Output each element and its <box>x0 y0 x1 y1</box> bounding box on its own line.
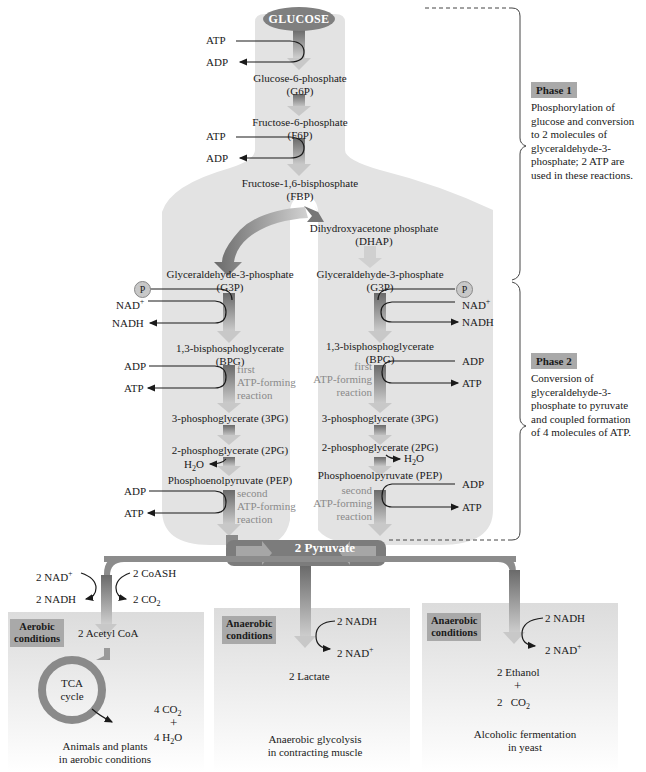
h-text: H <box>404 452 412 464</box>
left-note-first: first ATP-forming reaction <box>237 363 296 402</box>
note-line: ATP-forming <box>237 376 296 389</box>
left-note-second: second ATP-forming reaction <box>237 487 296 526</box>
left-g3p-name: Glyceraldehyde-3-phosphate <box>160 268 300 281</box>
left-atp-out-1: ATP <box>124 382 144 395</box>
right-adp-in-1: ADP <box>462 355 484 368</box>
nad-text: NAD <box>462 299 486 311</box>
right-bpg-name: 1,3-bisphosphoglycerate <box>310 340 450 353</box>
adp-out-label-2: ADP <box>206 152 228 165</box>
nad-text: 2 NAD <box>337 647 369 659</box>
note-line: reaction <box>306 386 372 399</box>
nad-sup: + <box>140 297 145 306</box>
glucose-node: GLUCOSE <box>263 7 335 31</box>
nad-text: 2 NAD <box>545 644 577 656</box>
g6p-name: Glucose-6-phosphate <box>230 72 370 85</box>
right-g3p-name: Glyceraldehyde-3-phosphate <box>310 268 450 281</box>
nad-text: NAD <box>116 299 140 311</box>
tag-line: Aerobic <box>14 621 60 633</box>
note-line: second <box>237 487 296 500</box>
desc-line: Phosphorylation of <box>531 101 634 115</box>
note-line: reaction <box>237 513 296 526</box>
note-line: ATP-forming <box>306 497 372 510</box>
ethanol-nad-out: 2 NAD+ <box>545 640 582 657</box>
glycolysis-diagram: GLUCOSE ATP ADP Glucose-6-phosphate (G6P… <box>0 0 646 772</box>
fbp-abbr: (FBP) <box>220 190 380 203</box>
left-3pg-label: 3-phosphoglycerate (3PG) <box>160 412 300 425</box>
left-adp-in-1: ADP <box>124 360 146 373</box>
left-atp-out-2: ATP <box>124 507 144 520</box>
fbp-label: Fructose-1,6-bisphosphate (FBP) <box>220 177 380 203</box>
right-atp-out-2: ATP <box>462 501 482 514</box>
desc-line: glucose and conversion <box>531 115 634 129</box>
h-text: H <box>184 458 192 470</box>
co2-sub: 2 <box>178 709 182 718</box>
tca-cycle-label: TCA cycle <box>52 677 92 703</box>
cycle-line: cycle <box>52 690 92 703</box>
co2-sub: 2 <box>526 702 530 711</box>
co2-text: 2 CO <box>497 696 526 708</box>
g6p-abbr: (G6P) <box>230 85 370 98</box>
dhap-abbr: (DHAP) <box>304 235 444 248</box>
lactate-product: 2 Lactate <box>289 670 330 683</box>
note-line: ATP-forming <box>237 500 296 513</box>
note-line: second <box>306 484 372 497</box>
right-adp-in-2: ADP <box>462 478 484 491</box>
aerobic-conditions-tag: Aerobic conditions <box>10 619 64 647</box>
atp-in-label: ATP <box>206 34 226 47</box>
caption-line: Animals and plants <box>40 740 170 753</box>
nad-sup: + <box>68 569 73 578</box>
dhap-label: Dihydroxyacetone phosphate (DHAP) <box>304 222 444 248</box>
desc-line: used in these reactions. <box>531 169 634 183</box>
caption-line: in yeast <box>455 741 595 754</box>
desc-line: glyceraldehyde-3- <box>531 142 634 156</box>
note-line: first <box>237 363 296 376</box>
phase2-description: Conversion of glyceraldehyde-3- phosphat… <box>531 372 631 440</box>
left-2pg-label: 2-phosphoglycerate (2PG) <box>160 444 300 457</box>
tag-line: Anaerobic <box>431 615 477 627</box>
left-water-out: H2O <box>184 458 204 475</box>
caption-line: Anaerobic glycolysis <box>250 733 380 746</box>
right-nadh-out: NADH <box>462 316 494 329</box>
note-line: ATP-forming <box>306 373 372 386</box>
dhap-name: Dihydroxyacetone phosphate <box>304 222 444 235</box>
co2-sub: 2 <box>157 599 161 608</box>
note-line: reaction <box>237 389 296 402</box>
right-pep-label: Phosphoenolpyruvate (PEP) <box>305 469 455 482</box>
right-g3p-label: Glyceraldehyde-3-phosphate (G3P) <box>310 268 450 294</box>
right-note-second: second ATP-forming reaction <box>306 484 372 523</box>
desc-line: and coupled formation <box>531 413 631 427</box>
aerobic-nadh-out: 2 NADH <box>36 593 76 606</box>
caption-line: in aerobic conditions <box>40 753 170 766</box>
note-line: first <box>306 360 372 373</box>
adp-out-label: ADP <box>206 56 228 69</box>
desc-line: Conversion of <box>531 372 631 386</box>
tag-line: conditions <box>14 633 60 645</box>
nad-sup: + <box>486 297 491 306</box>
left-bpg-name: 1,3-bisphosphoglycerate <box>160 342 300 355</box>
ethanol-caption: Alcoholic fermentation in yeast <box>455 728 595 754</box>
tag-line: conditions <box>226 630 272 642</box>
g6p-label: Glucose-6-phosphate (G6P) <box>230 72 370 98</box>
right-nad-in: NAD+ <box>462 295 490 312</box>
f6p-name: Fructose-6-phosphate <box>230 116 370 129</box>
atp-in-label-2: ATP <box>206 130 226 143</box>
phase1-description: Phosphorylation of glucose and conversio… <box>531 101 634 182</box>
right-atp-out-1: ATP <box>462 377 482 390</box>
ethanol-nadh-in: 2 NADH <box>545 612 585 625</box>
desc-line: to 2 molecules of <box>531 128 634 142</box>
left-nad-in: NAD+ <box>116 295 144 312</box>
nad-sup: + <box>577 642 582 651</box>
acetyl-coa-label: 2 Acetyl CoA <box>78 627 139 640</box>
left-pep-label: Phosphoenolpyruvate (PEP) <box>155 474 305 487</box>
tag-line: conditions <box>431 627 477 639</box>
phase2-tag: Phase 2 <box>531 353 577 369</box>
lactate-nad-out: 2 NAD+ <box>337 643 374 660</box>
f6p-abbr: (F6P) <box>230 129 370 142</box>
co2-text: 4 CO <box>154 703 178 715</box>
tag-line: Anaerobic <box>226 618 272 630</box>
o-text: O <box>416 452 424 464</box>
ethanol-conditions-tag: Anaerobic conditions <box>427 613 481 641</box>
pyruvate-node: 2 Pyruvate <box>270 539 380 557</box>
left-g3p-label: Glyceraldehyde-3-phosphate (G3P) <box>160 268 300 294</box>
aerobic-caption: Animals and plants in aerobic conditions <box>40 740 170 766</box>
